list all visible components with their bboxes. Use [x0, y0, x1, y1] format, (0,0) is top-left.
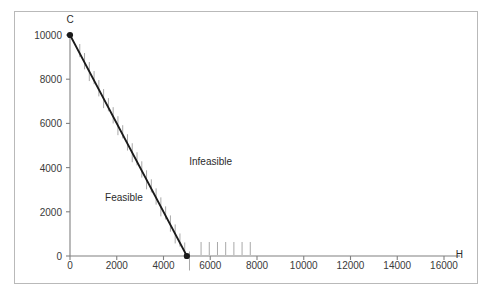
- endpoint-marker: [67, 32, 73, 38]
- x-tick-label: 0: [67, 260, 73, 271]
- x-tick-label: 8000: [246, 260, 268, 271]
- x-tick-label: 2000: [106, 260, 128, 271]
- x-tick-label: 16000: [430, 260, 458, 271]
- x-tick-label: 14000: [383, 260, 411, 271]
- x-tick-label: 6000: [199, 260, 221, 271]
- y-tick-label: 4000: [40, 162, 62, 173]
- x-tick-label: 10000: [290, 260, 318, 271]
- constraint-line: [70, 35, 187, 256]
- y-tick-label: 0: [56, 251, 62, 262]
- h-axis-label: H: [456, 249, 463, 260]
- endpoint-marker: [184, 253, 190, 259]
- chart-figure: 0200040006000800010000120001400016000 02…: [0, 0, 496, 302]
- x-tick-label: 12000: [337, 260, 365, 271]
- feasible-label: Feasible: [105, 192, 143, 203]
- chart-plot-area: [0, 0, 496, 302]
- c-axis-label: C: [66, 14, 73, 25]
- y-tick-label: 6000: [40, 118, 62, 129]
- axes-group: [66, 33, 460, 260]
- x-tick-label: 4000: [152, 260, 174, 271]
- y-tick-label: 10000: [34, 30, 62, 41]
- y-tick-label: 8000: [40, 74, 62, 85]
- y-tick-label: 2000: [40, 206, 62, 217]
- constraint-line-group: [70, 35, 187, 256]
- infeasible-label: Infeasible: [189, 156, 232, 167]
